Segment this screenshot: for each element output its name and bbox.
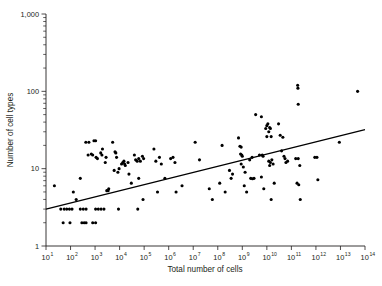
data-point [122, 160, 125, 163]
data-point [105, 156, 108, 159]
data-point [272, 162, 275, 165]
y-tick-label: 1,000 [21, 10, 40, 19]
data-point [279, 134, 282, 137]
data-point [262, 187, 265, 190]
data-point [269, 161, 272, 164]
svg-text:10: 10 [262, 253, 270, 262]
data-point [252, 177, 255, 180]
data-point [175, 190, 178, 193]
svg-text:11: 11 [296, 251, 301, 257]
svg-text:10: 10 [42, 253, 50, 262]
data-point [99, 208, 102, 211]
data-point [268, 164, 271, 167]
data-point [269, 127, 272, 130]
data-point [241, 155, 244, 158]
svg-text:10: 10 [164, 253, 172, 262]
svg-text:10: 10 [271, 251, 277, 257]
x-tick-label: 1012 [312, 251, 327, 262]
svg-text:10: 10 [287, 253, 295, 262]
y-tick-label: 1 [35, 242, 39, 251]
data-point [260, 115, 263, 118]
data-point [59, 208, 62, 211]
data-point [240, 146, 243, 149]
data-point [75, 198, 78, 201]
svg-text:10: 10 [189, 253, 197, 262]
data-point [237, 136, 240, 139]
data-point [297, 103, 300, 106]
data-point [107, 187, 110, 190]
data-point [152, 147, 155, 150]
data-point [277, 122, 280, 125]
svg-text:10: 10 [336, 253, 344, 262]
data-point [158, 156, 161, 159]
x-tick-label: 107 [189, 251, 201, 262]
data-point [356, 90, 359, 93]
data-point [244, 171, 247, 174]
data-point [130, 182, 133, 185]
svg-text:5: 5 [149, 251, 152, 257]
svg-text:13: 13 [345, 251, 351, 257]
svg-text:3: 3 [99, 251, 102, 257]
y-tick-label: 10 [31, 164, 39, 173]
data-point [79, 208, 82, 211]
data-point [124, 164, 127, 167]
data-point [230, 177, 233, 180]
x-tick-label: 1011 [287, 251, 301, 262]
data-point [104, 161, 107, 164]
data-point [87, 141, 90, 144]
x-tick-label: 1014 [361, 251, 376, 262]
x-tick-label: 104 [115, 251, 127, 262]
x-axis-title: Total number of cells [167, 265, 242, 274]
svg-text:10: 10 [213, 253, 221, 262]
data-point [114, 151, 117, 154]
data-point [115, 156, 118, 159]
data-point [94, 221, 97, 224]
data-point [118, 167, 121, 170]
svg-text:10: 10 [66, 253, 74, 262]
svg-text:10: 10 [91, 253, 99, 262]
data-point [101, 147, 104, 150]
data-point [224, 190, 227, 193]
data-point [136, 160, 139, 163]
data-point [136, 208, 139, 211]
data-point [297, 157, 300, 160]
svg-text:10: 10 [115, 253, 123, 262]
data-point [296, 87, 299, 90]
data-point [231, 173, 234, 176]
svg-text:1: 1 [50, 251, 53, 257]
data-point [160, 162, 163, 165]
data-point [297, 183, 300, 186]
data-point [84, 141, 87, 144]
y-axis-ticks [42, 14, 47, 246]
data-point [266, 122, 269, 125]
data-point [283, 157, 286, 160]
data-point [315, 156, 318, 159]
svg-text:7: 7 [198, 251, 201, 257]
svg-text:14: 14 [369, 251, 375, 257]
x-tick-label: 108 [213, 251, 225, 262]
data-point [208, 187, 211, 190]
data-point [139, 160, 142, 163]
data-point [243, 184, 246, 187]
data-point [171, 156, 174, 159]
chart-figure: 1011021031041051061071081091010101110121… [0, 0, 382, 286]
data-point [156, 190, 159, 193]
data-point [133, 154, 136, 157]
y-tick-label: 100 [27, 87, 39, 96]
data-point [116, 171, 119, 174]
data-point [97, 208, 100, 211]
data-point [111, 141, 114, 144]
data-point [228, 169, 231, 172]
data-point [70, 208, 73, 211]
data-point [270, 135, 273, 138]
data-points [53, 84, 359, 225]
data-point [273, 182, 276, 185]
data-point [198, 158, 201, 161]
data-point [100, 154, 103, 157]
x-tick-label: 102 [66, 251, 78, 262]
svg-text:10: 10 [361, 253, 369, 262]
data-point [87, 154, 90, 157]
svg-text:10: 10 [312, 253, 320, 262]
data-point [94, 208, 97, 211]
svg-text:2: 2 [75, 251, 78, 257]
